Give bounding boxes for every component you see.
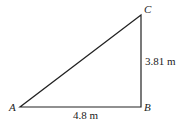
side-label-ab: 4.8 m — [73, 110, 98, 120]
vertex-label-c: C — [144, 4, 151, 15]
vertex-label-a: A — [9, 102, 16, 113]
triangle-abc — [20, 15, 141, 107]
vertex-label-b: B — [144, 102, 151, 113]
side-label-bc: 3.81 m — [145, 56, 176, 67]
